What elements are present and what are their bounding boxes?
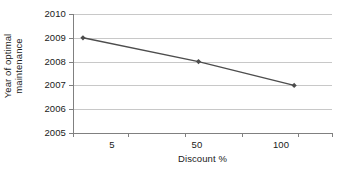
data-series-line — [83, 38, 294, 86]
gridlines — [73, 15, 332, 134]
line-chart: Year of optimal maintenance Discount % 2… — [0, 0, 342, 176]
y-axis-ticks — [69, 15, 73, 134]
y-tick-label: 2008 — [32, 56, 66, 67]
x-tick-label: 5 — [92, 139, 132, 150]
x-tick-label: 50 — [177, 139, 217, 150]
y-tick-label: 2007 — [32, 79, 66, 90]
y-tick-label: 2005 — [32, 127, 66, 138]
data-point-marker — [196, 59, 201, 64]
y-axis-title-line1: Year of optimal — [2, 34, 14, 99]
x-tick-label: 100 — [261, 139, 301, 150]
data-point-markers — [80, 35, 296, 88]
y-axis-title-line2: maintenance — [13, 38, 25, 94]
y-tick-label: 2009 — [32, 32, 66, 43]
data-point-marker — [292, 83, 297, 88]
y-tick-label: 2006 — [32, 103, 66, 114]
y-tick-label: 2010 — [32, 8, 66, 19]
data-point-marker — [80, 35, 85, 40]
y-axis-title: Year of optimal maintenance — [0, 4, 26, 128]
x-axis-title: Discount % — [73, 153, 332, 164]
